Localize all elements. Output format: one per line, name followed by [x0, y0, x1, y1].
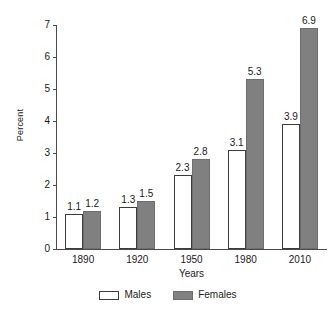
x-tick-label-1950: 1950 [164, 254, 220, 265]
y-tick-label: 3 [36, 148, 50, 158]
y-tick-mark [53, 249, 57, 250]
x-axis-title: Years [56, 268, 327, 279]
y-tick-label: 5 [36, 84, 50, 94]
bar-value-label: 1.2 [77, 199, 107, 209]
bar-females-2010[interactable] [300, 28, 318, 249]
bar-males-1980[interactable] [228, 150, 246, 249]
bar-value-label: 2.8 [186, 147, 216, 157]
legend-label: Males [124, 290, 151, 300]
y-axis-title: Percent [15, 90, 25, 160]
y-tick-label: 6 [36, 52, 50, 62]
y-tick-label: 2 [36, 180, 50, 190]
y-tick-label: 4 [36, 116, 50, 126]
legend-swatch-males [99, 291, 119, 300]
legend-swatch-females [173, 291, 193, 300]
y-tick-label: 1 [36, 212, 50, 222]
bar-value-label: 1.5 [131, 189, 161, 199]
x-tick-label-1890: 1890 [55, 254, 111, 265]
bar-males-2010[interactable] [282, 124, 300, 249]
bar-females-1890[interactable] [83, 211, 101, 249]
chart-legend: MalesFemales [0, 290, 336, 300]
x-axis-line [56, 249, 327, 250]
legend-item-females[interactable]: Females [173, 290, 236, 300]
plot-area: 1.11.21.31.52.32.83.15.33.96.9 [56, 25, 327, 249]
bar-males-1890[interactable] [65, 214, 83, 249]
bar-males-1920[interactable] [119, 207, 137, 249]
x-tick-label-2010: 2010 [272, 254, 328, 265]
legend-item-males[interactable]: Males [99, 290, 151, 300]
y-tick-label: 0 [36, 244, 50, 254]
legend-label: Females [198, 290, 236, 300]
y-tick-label: 7 [36, 20, 50, 30]
x-tick-label-1980: 1980 [218, 254, 274, 265]
bar-value-label: 5.3 [240, 67, 270, 77]
bar-females-1950[interactable] [192, 159, 210, 249]
bar-value-label: 6.9 [294, 16, 324, 26]
bar-chart: Percent 01234567 1.11.21.31.52.32.83.15.… [0, 0, 336, 315]
x-tick-label-1920: 1920 [109, 254, 165, 265]
bar-males-1950[interactable] [174, 175, 192, 249]
bar-females-1980[interactable] [246, 79, 264, 249]
bar-females-1920[interactable] [137, 201, 155, 249]
